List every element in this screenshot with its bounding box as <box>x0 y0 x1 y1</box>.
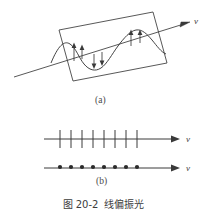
figure-caption-number: 图 20-2 <box>63 199 99 210</box>
panel-b-dot-line-group: v <box>44 163 190 173</box>
vibration-dot <box>113 165 117 169</box>
velocity-label-dot-line: v <box>186 163 190 173</box>
figure-caption-text: 线偏振光 <box>104 199 144 210</box>
figure-container: v v v <box>0 0 207 211</box>
vibration-dot <box>58 165 62 169</box>
vibration-dot <box>91 165 95 169</box>
velocity-label-tick-line: v <box>186 134 190 144</box>
propagation-axis-arrowhead <box>180 22 190 27</box>
vibration-dot <box>135 165 139 169</box>
tick-line-arrowhead <box>171 136 180 143</box>
panel-a-group: v <box>14 12 198 81</box>
dot-line-arrowhead <box>171 165 180 172</box>
vibration-arrow-down-1 <box>92 54 97 69</box>
vibration-arrow-up-2 <box>80 45 85 60</box>
figure-caption: 图 20-2线偏振光 <box>0 196 207 211</box>
vibration-arrow-up-3 <box>129 30 134 47</box>
velocity-label-panel-a: v <box>194 16 198 26</box>
panel-b-label: (b) <box>96 176 107 186</box>
vibration-dot <box>124 165 128 169</box>
vibration-arrow-down-2 <box>100 52 105 66</box>
panel-a-label: (a) <box>95 95 106 105</box>
vibration-dot <box>69 165 73 169</box>
vibration-dot <box>80 165 84 169</box>
vibration-dot <box>102 165 106 169</box>
vibration-arrow-up-1 <box>72 43 77 62</box>
panel-b-tick-line-group: v <box>44 130 190 148</box>
